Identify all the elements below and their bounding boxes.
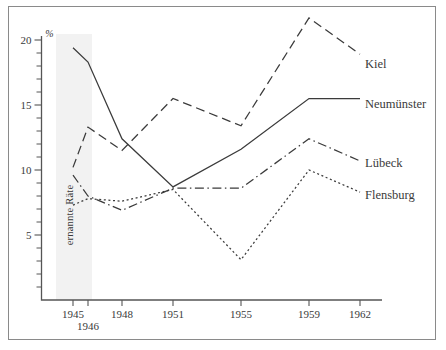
series-label-flensburg: Flensburg: [365, 188, 416, 202]
x-axis-label: 1959: [298, 308, 321, 320]
x-axis-label: 1955: [230, 308, 253, 320]
y-axis-label: 5: [26, 229, 32, 241]
chart-svg: 5101520%1945194619481951195519591962erna…: [0, 0, 446, 350]
y-axis-label: 15: [21, 99, 33, 111]
series-line-lubeck: [73, 139, 360, 211]
series-line-neumunster: [73, 48, 360, 187]
line-chart: 5101520%1945194619481951195519591962erna…: [0, 0, 446, 350]
y-axis-label: 10: [21, 164, 33, 176]
series-label-lubeck: Lübeck: [365, 156, 403, 170]
chart-axes: [42, 36, 383, 300]
x-axis-label: 1945: [62, 308, 85, 320]
series-line-flensburg: [73, 170, 360, 260]
x-axis-label: 1962: [349, 308, 371, 320]
annotation-band-label: ernannte Räte: [64, 185, 75, 246]
x-axis-label: 1946: [77, 320, 100, 332]
y-axis-unit-label: %: [45, 28, 53, 39]
x-axis-label: 1951: [162, 308, 184, 320]
annotation-band: [56, 34, 92, 300]
series-label-kiel: Kiel: [365, 57, 387, 71]
series-line-kiel: [73, 18, 360, 168]
series-label-neumunster: Neumünster: [365, 97, 427, 111]
x-axis-label: 1948: [111, 308, 134, 320]
y-axis-label: 20: [21, 34, 33, 46]
